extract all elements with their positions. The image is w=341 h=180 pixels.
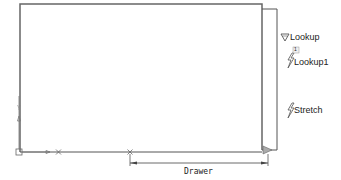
- drawer-rectangle[interactable]: [20, 4, 262, 152]
- parameter-label-lookup1[interactable]: Lookup1: [294, 57, 329, 67]
- drawer-dimension[interactable]: [130, 154, 268, 166]
- parameter-label-lookup[interactable]: Lookup: [290, 32, 320, 42]
- stretch-grip-icon[interactable]: [263, 146, 272, 154]
- parameter-label-stretch[interactable]: Stretch: [294, 105, 323, 115]
- back-panel-rectangle[interactable]: [262, 9, 277, 150]
- ucs-icon: [16, 96, 50, 155]
- drawing-canvas[interactable]: [0, 0, 341, 180]
- lookup1-badge: 1: [294, 46, 297, 52]
- lookup-triangle-icon[interactable]: [281, 34, 289, 41]
- dimension-label: Drawer: [184, 167, 213, 177]
